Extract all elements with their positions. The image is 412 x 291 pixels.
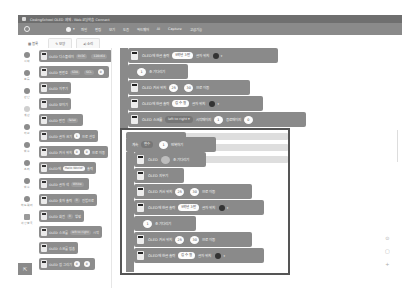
category-dot-icon <box>24 196 30 202</box>
palette-block[interactable]: OLED 스크롤left to right시작 <box>39 226 102 238</box>
category-extension[interactable]: 확장블록 <box>20 214 34 227</box>
block-palette: OLED 디스플레이0x3C128x64 OLED 핀번호SDASCL0 OLE… <box>36 48 112 288</box>
oled-scroll-block[interactable]: OLED 스크롤 left to right ▾ 시작페이지 1 종료페이지 0 <box>128 112 306 127</box>
oled-icon <box>137 235 144 244</box>
category-func[interactable]: 함수 <box>20 142 34 155</box>
category-dot-icon <box>24 142 30 148</box>
palette-block[interactable]: OLED 보이기 <box>39 98 71 110</box>
palette-block[interactable]: OLED 숫자 출력0진법으로 <box>39 194 97 206</box>
tab-blocks[interactable]: ▦ 블록 <box>22 39 44 48</box>
category-dot-icon <box>24 106 30 112</box>
hardware-connect-icon: ⇱ <box>23 266 27 272</box>
palette-block[interactable]: OLED 글자 크기1으로 설정 <box>39 130 98 142</box>
oled-cursor-block[interactable]: OLED 커서 위치 25 30 으로 이동 <box>128 80 250 95</box>
oled-icon <box>41 260 47 268</box>
gear-icon[interactable] <box>209 101 215 107</box>
palette-block[interactable]: OLED 지우기 <box>39 82 71 94</box>
palette-block[interactable]: OLED 회전0방향 <box>39 210 84 222</box>
dropdown-icon[interactable]: ▾ <box>73 27 75 31</box>
zoom-controls: ⊙ ▢ + <box>385 235 390 267</box>
menu-view[interactable]: 보기 <box>109 27 115 32</box>
zoom-fit-icon[interactable]: ▢ <box>385 248 390 254</box>
tab-sounds[interactable]: ◂) 소리 <box>76 38 100 48</box>
oled-print-block[interactable]: OLED에 한글 출력 김 수 철 글자 위치 ▾ <box>128 96 263 111</box>
oled-icon <box>41 148 47 156</box>
oled-print-block[interactable]: OLED에 한글 출력 5학년 3반 글자 위치 ▾ <box>134 200 264 215</box>
chevron-down-icon[interactable]: ▾ <box>221 54 223 58</box>
repeat-spine <box>126 152 134 272</box>
category-sidebar: 시작 흐름 판단 계산 자료 함수 소리 함수 하드웨어 확장블록 <box>20 52 34 232</box>
palette-block[interactable]: OLED 반전false <box>39 114 83 126</box>
menubar: ▾ 파일 편집 보기 도움 하드웨어 AI Capture 고급기능 <box>18 23 402 35</box>
chevron-down-icon[interactable]: ▾ <box>223 254 225 258</box>
gear-icon[interactable] <box>213 53 219 59</box>
category-flow[interactable]: 흐름 <box>20 70 34 83</box>
oled-print-block[interactable]: OLED에 한글 출력 5학년 3반 글자 위치 ▾ <box>128 48 278 63</box>
oled-block[interactable]: OLED 초 기다리기 <box>134 152 206 167</box>
oled-icon <box>41 244 47 252</box>
oled-icon <box>41 84 47 92</box>
oled-print-block[interactable]: OLED에 한글 출력 김 수 철 글자 위치 ▾ <box>134 248 264 263</box>
oled-icon <box>137 187 144 196</box>
wait-block[interactable]: 1 초 기다리기 <box>134 216 196 231</box>
palette-block[interactable]: OLED 핀번호SDASCL0 <box>39 66 109 78</box>
oled-icon <box>41 132 47 140</box>
oled-cursor-block[interactable]: OLED 커서 위치 25 30 으로 이동 <box>134 184 252 199</box>
menu-capture[interactable]: Capture <box>168 27 181 31</box>
selected-block-group[interactable]: 계속 변수 1 반복하기 OLED 초 기다리기 OLED 지우기 OLED 커… <box>120 128 290 275</box>
category-dot-icon <box>24 124 30 130</box>
oled-cursor-block[interactable]: OLED 커서 위치 25 30 으로 이동 <box>134 232 252 247</box>
oled-icon <box>137 251 144 260</box>
logo-icon[interactable] <box>24 26 30 32</box>
menu-ai[interactable]: AI <box>157 27 160 31</box>
app-icon <box>22 17 26 21</box>
wait-block[interactable]: 1 초 기다리기 <box>128 64 188 79</box>
category-data[interactable]: 자료 <box>20 124 34 137</box>
menu-advanced[interactable]: 고급기능 <box>190 27 202 32</box>
oled-icon <box>41 180 47 188</box>
oled-icon <box>41 164 47 172</box>
oled-icon <box>131 99 138 108</box>
chevron-down-icon[interactable]: ▾ <box>227 206 229 210</box>
hardware-connect-button[interactable]: ⇱ <box>18 263 32 275</box>
palette-block[interactable]: OLED 점 그리기00 <box>39 258 95 270</box>
palette-block[interactable]: OLED 글자 색White <box>39 178 89 190</box>
menu-edit[interactable]: 편집 <box>95 27 101 32</box>
palette-block[interactable]: OLED 스크롤 멈춤 <box>39 242 78 254</box>
menu-help[interactable]: 도움 <box>123 27 129 32</box>
zoom-reset-icon[interactable]: ⊙ <box>385 235 389 241</box>
zoom-in-icon[interactable]: + <box>385 261 389 267</box>
window-title: CodingSchool OLED 예제 - Web 코딩학습 Connect <box>30 17 110 22</box>
category-calc[interactable]: 계산 <box>20 106 34 119</box>
menu-hardware[interactable]: 하드웨어 <box>137 27 149 32</box>
oled-icon <box>131 51 138 60</box>
category-dot-icon <box>24 70 30 76</box>
category-dot-icon <box>24 160 30 166</box>
palette-block[interactable]: OLED에Hello World!출력 <box>39 162 96 174</box>
gear-icon[interactable] <box>219 205 225 211</box>
window-titlebar: CodingSchool OLED 예제 - Web 코딩학습 Connect <box>18 15 402 23</box>
gear-icon[interactable] <box>215 253 221 259</box>
oled-clear-block[interactable]: OLED 지우기 <box>134 168 184 183</box>
tab-shapes[interactable]: ✎ 모양 <box>48 38 72 48</box>
category-hardware[interactable]: 하드웨어 <box>20 196 34 209</box>
editor-tabs: ▦ 블록 ✎ 모양 ◂) 소리 <box>22 38 100 48</box>
canvas-scrollbar[interactable] <box>397 130 398 162</box>
menu-file[interactable]: 파일 <box>81 27 87 32</box>
oled-icon <box>137 203 144 212</box>
palette-block[interactable]: OLED 디스플레이0x3C128x64 <box>39 50 112 62</box>
extension-icon <box>24 214 30 220</box>
category-func2[interactable]: 함수 <box>20 178 34 191</box>
oled-icon <box>41 212 47 220</box>
repeat-block[interactable]: 계속 변수 1 반복하기 <box>126 137 216 152</box>
category-start[interactable]: 시작 <box>20 52 34 65</box>
category-dot-icon <box>24 178 30 184</box>
category-judge[interactable]: 판단 <box>20 88 34 101</box>
oled-icon <box>137 171 144 180</box>
chevron-down-icon[interactable]: ▾ <box>217 102 219 106</box>
palette-block[interactable]: OLED 커서 위치00으로 이동 <box>39 146 108 158</box>
globe-icon[interactable] <box>66 27 71 32</box>
category-dot-icon <box>24 88 30 94</box>
oled-icon <box>41 68 47 76</box>
category-sound[interactable]: 소리 <box>20 160 34 173</box>
